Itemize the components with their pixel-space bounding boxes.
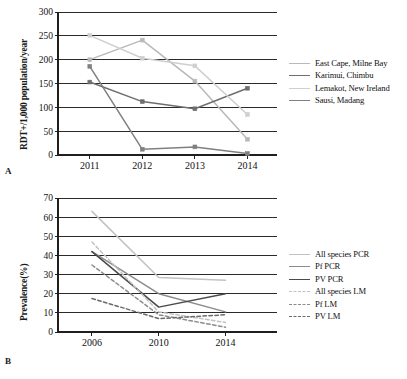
legend-item[interactable]: Pf LM [289,298,369,311]
legend-item-label: Sausi, Madang [315,96,364,105]
series-marker [246,113,250,117]
series-marker [88,80,92,84]
legend-item-label: Karimui, Chimbu [315,71,373,80]
legend-swatch-icon [289,279,310,280]
series-line [92,252,226,312]
legend-item-label: East Cape, Milne Bay [315,59,387,68]
legend-swatch-icon [289,63,310,64]
legend-item[interactable]: Pf PCR [289,261,369,274]
series-line [92,211,226,280]
legend-swatch-icon [289,316,310,317]
series-marker [88,58,92,62]
series-marker [246,152,250,156]
y-tick-label: 10 [44,308,54,318]
legend-item-label: PV PCR [315,275,343,284]
y-tick-label: 20 [44,289,54,299]
legend-swatch-icon [289,100,310,101]
series-line [90,66,248,153]
x-tick-label: 2006 [82,337,102,348]
y-tick-label: 0 [48,327,53,337]
x-tick-label: 2014 [216,337,236,348]
series-marker [193,79,197,83]
y-tick-label: 40 [44,251,54,261]
series-marker [246,137,250,141]
legend-swatch-icon [289,266,310,267]
series-marker [140,38,144,42]
legend-swatch-icon [289,254,310,255]
legend-item[interactable]: All species PCR [289,248,369,261]
series-marker [140,100,144,104]
figure-two-panel-line-charts: A RDT+/1,000 population/year 05010015020… [0,0,407,379]
y-tick-label: 250 [39,31,54,41]
y-tick-label: 60 [44,213,54,223]
panel-a-legend: East Cape, Milne BayKarimui, ChimbuLemak… [289,57,390,107]
y-tick-label: 30 [44,270,54,280]
legend-swatch-icon [289,88,310,89]
y-tick-label: 70 [44,193,54,203]
legend-swatch-icon [289,75,310,76]
series-marker [246,86,250,90]
legend-item-label: Lemakot, New Ireland [315,84,390,93]
series-line [92,299,226,319]
y-tick-label: 0 [48,150,53,160]
series-marker [88,33,92,37]
x-tick-label: 2013 [185,160,205,171]
x-tick-label: 2012 [132,160,152,171]
y-tick-label: 50 [44,232,54,242]
y-tick-label: 200 [39,55,54,65]
series-line [90,40,248,139]
panel-b-plot: 010203040506070200620102014 [0,189,300,378]
panel-b-legend: All species PCRPf PCRPV PCRAll species L… [289,248,369,323]
legend-item[interactable]: Lemakot, New Ireland [289,82,390,95]
legend-item-label: Pf LM [315,300,337,309]
series-marker [88,64,92,68]
legend-item[interactable]: All species LM [289,286,369,299]
series-marker [193,64,197,68]
panel-a-plot: 0501001502002503002011201220132014 [0,0,300,189]
legend-item-label: Pf PCR [315,262,340,271]
legend-item-label: All species LM [315,287,366,296]
legend-item-label: All species PCR [315,250,369,259]
y-tick-label: 150 [39,79,54,89]
legend-item[interactable]: Sausi, Madang [289,95,390,108]
legend-swatch-icon [289,291,310,292]
legend-item-label: PV LM [315,312,340,321]
y-tick-label: 50 [44,127,54,137]
legend-item[interactable]: PV LM [289,311,369,324]
legend-swatch-icon [289,304,310,305]
x-tick-label: 2010 [149,337,169,348]
series-marker [193,107,197,111]
y-tick-label: 300 [39,7,54,17]
x-tick-label: 2014 [237,160,257,171]
legend-item[interactable]: Karimui, Chimbu [289,70,390,83]
legend-item[interactable]: East Cape, Milne Bay [289,57,390,70]
y-tick-label: 100 [39,103,54,113]
legend-item[interactable]: PV PCR [289,273,369,286]
series-line [92,242,226,322]
panel-a: A RDT+/1,000 population/year 05010015020… [0,0,407,189]
x-tick-label: 2011 [80,160,100,171]
panel-a-svg: 0501001502002503002011201220132014 [0,0,300,189]
series-marker [140,147,144,151]
series-marker [140,56,144,60]
series-marker [193,145,197,149]
panel-b-svg: 010203040506070200620102014 [0,189,300,378]
panel-b: B Prevalence(%) 010203040506070200620102… [0,189,407,378]
